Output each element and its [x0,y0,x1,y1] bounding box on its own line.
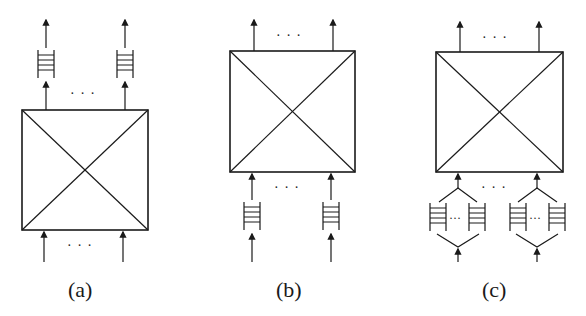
virtual-output-queue-icon [469,203,485,231]
voq-group: ··· [510,174,565,262]
panel-label: (b) [276,277,302,302]
ellipsis: · · · [274,180,300,195]
panel-a: · · · · · · (a) [22,20,148,302]
input-queue-icon [323,202,339,230]
ellipsis: · · · [70,86,96,101]
ellipsis: · · · [482,30,508,45]
panel-label: (a) [68,277,92,302]
panel-label: (c) [482,277,506,302]
switch-architecture-diagram: · · · · · · (a) · · · · · · (b) [0,0,586,316]
output-queue-icon [38,50,54,78]
virtual-output-queue-icon [549,203,565,231]
input-queue-icon [244,202,260,230]
virtual-output-queue-icon [510,203,526,231]
panel-c: · · · ··· ··· · · · (c) [430,22,565,302]
output-queue-icon [117,50,133,78]
ellipsis: · · · [276,28,302,43]
inner-ellipsis: ··· [529,211,541,225]
voq-group: ··· [430,174,485,262]
panel-b: · · · · · · (b) [230,20,355,302]
virtual-output-queue-icon [430,203,446,231]
ellipsis: · · · [481,180,507,195]
inner-ellipsis: ··· [449,211,461,225]
ellipsis: · · · [67,238,93,253]
